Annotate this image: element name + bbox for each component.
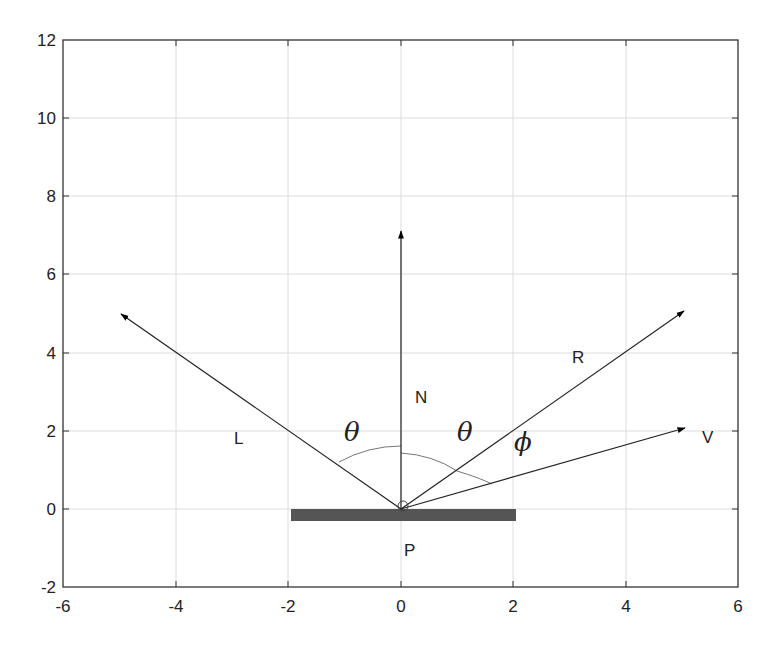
label-R: R — [572, 348, 584, 367]
figure: -6 -4 -2 0 2 4 6 -2 0 2 4 6 8 10 12 L N … — [0, 0, 779, 655]
y-tick-label: 0 — [47, 500, 56, 519]
label-theta-left: θ — [344, 417, 360, 447]
x-tick-label: 0 — [396, 597, 405, 616]
x-tick-label: -4 — [168, 597, 183, 616]
y-tick-label: 8 — [47, 187, 56, 206]
label-V: V — [702, 428, 714, 447]
x-axis-labels: -6 -4 -2 0 2 4 6 — [55, 597, 742, 616]
label-N: N — [415, 388, 427, 407]
label-theta-right: θ — [457, 417, 473, 447]
y-tick-label: -2 — [41, 578, 56, 597]
y-tick-label: 2 — [47, 422, 56, 441]
x-tick-label: -6 — [55, 597, 70, 616]
y-tick-label: 6 — [47, 265, 56, 284]
x-tick-label: 6 — [733, 597, 742, 616]
y-axis-labels: -2 0 2 4 6 8 10 12 — [37, 31, 56, 597]
x-tick-label: -2 — [280, 597, 295, 616]
x-tick-label: 2 — [508, 597, 517, 616]
label-L: L — [234, 429, 243, 448]
y-tick-label: 4 — [47, 344, 56, 363]
label-phi: ϕ — [514, 427, 532, 457]
y-tick-label: 10 — [37, 109, 56, 128]
label-P: P — [404, 541, 415, 560]
y-tick-label: 12 — [37, 31, 56, 50]
x-tick-label: 4 — [621, 597, 630, 616]
